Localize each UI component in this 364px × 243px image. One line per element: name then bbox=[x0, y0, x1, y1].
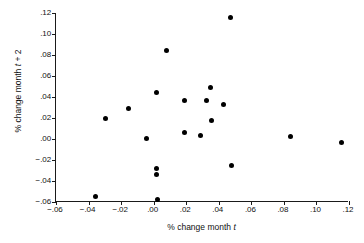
data-point bbox=[154, 90, 159, 95]
y-axis-title-variable: t bbox=[13, 64, 23, 66]
y-axis-tick bbox=[52, 76, 56, 77]
data-point bbox=[228, 15, 233, 20]
data-point bbox=[208, 85, 213, 90]
data-point bbox=[182, 130, 187, 135]
data-point bbox=[103, 116, 108, 121]
data-point bbox=[198, 133, 203, 138]
y-axis-tick bbox=[52, 118, 56, 119]
y-axis-tick-label: −.04 bbox=[17, 177, 51, 185]
data-point bbox=[221, 102, 226, 107]
y-axis-tick bbox=[52, 160, 56, 161]
data-point bbox=[182, 98, 187, 103]
data-point bbox=[93, 194, 98, 199]
data-point bbox=[229, 163, 234, 168]
y-axis-tick bbox=[52, 34, 56, 35]
data-point bbox=[339, 140, 344, 145]
y-axis-tick bbox=[52, 181, 56, 182]
y-axis-title: % change month t + 2 bbox=[13, 21, 23, 161]
data-point bbox=[288, 134, 293, 139]
data-point bbox=[154, 172, 159, 177]
x-axis-tick-label: .12 bbox=[328, 206, 364, 214]
plot-area bbox=[55, 13, 348, 202]
y-axis-title-suffix: + 2 bbox=[13, 50, 23, 64]
y-axis-tick bbox=[52, 13, 56, 14]
y-axis-tick-label: .12 bbox=[17, 9, 51, 17]
scatter-chart-figure: −.06−.04−.02.00.02.04.06.08.10.12 −.06−.… bbox=[0, 0, 364, 243]
data-point bbox=[204, 98, 209, 103]
y-axis-tick bbox=[52, 97, 56, 98]
data-point bbox=[155, 197, 160, 202]
y-axis-tick bbox=[52, 139, 56, 140]
x-axis-title-variable: t bbox=[233, 222, 235, 232]
data-point bbox=[209, 118, 214, 123]
y-axis-tick-label: −.06 bbox=[17, 198, 51, 206]
x-axis-title-prefix: % change month bbox=[167, 222, 233, 232]
data-point bbox=[154, 166, 159, 171]
data-point bbox=[164, 48, 169, 53]
data-point bbox=[144, 136, 149, 141]
data-point bbox=[126, 106, 131, 111]
x-axis-title: % change month t bbox=[55, 222, 348, 232]
x-axis-tick-labels: −.06−.04−.02.00.02.04.06.08.10.12 bbox=[55, 206, 348, 220]
y-axis-tick bbox=[52, 55, 56, 56]
y-axis-title-prefix: % change month bbox=[13, 66, 23, 132]
